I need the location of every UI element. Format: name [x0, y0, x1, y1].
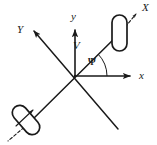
kinematics-diagram-svg: [0, 0, 157, 145]
global-X-axis-label: X: [142, 2, 149, 13]
psi-arc-path: [98, 54, 107, 76]
heading-angle-label: Ψ: [88, 57, 96, 67]
origin-point: [74, 75, 76, 77]
body-y-axis-label: y: [71, 11, 76, 22]
front-wheel: [112, 15, 127, 51]
body-x-axis-label: x: [139, 70, 144, 81]
front-wheel-body: [112, 15, 127, 51]
heading-angle-arc: [98, 54, 107, 76]
global-Y-axis-label: Y: [17, 24, 23, 35]
figure-container: y V x X Y Ψ: [0, 0, 157, 145]
rear-wheel: [9, 102, 43, 138]
velocity-label: V: [73, 40, 80, 51]
rear-wheel-body: [9, 102, 43, 138]
